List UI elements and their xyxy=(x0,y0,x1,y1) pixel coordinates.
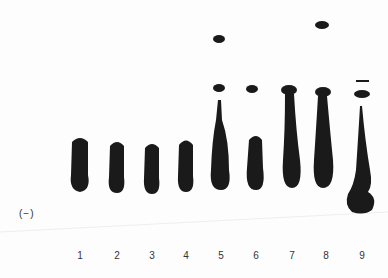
lane-label: 8 xyxy=(323,250,329,261)
lane-label: 9 xyxy=(359,250,365,261)
lane-label: 2 xyxy=(114,250,120,261)
lane-label: 1 xyxy=(77,250,83,261)
gel-bands xyxy=(0,0,388,278)
lane-label: 6 xyxy=(253,250,259,261)
lane-label: 7 xyxy=(289,250,295,261)
lane-label: 4 xyxy=(183,250,189,261)
gel-image: (−) 1 2 3 4 5 6 7 8 9 xyxy=(0,0,388,278)
lane-label: 3 xyxy=(149,250,155,261)
polarity-label: (−) xyxy=(19,208,35,219)
lane-label: 5 xyxy=(218,250,224,261)
